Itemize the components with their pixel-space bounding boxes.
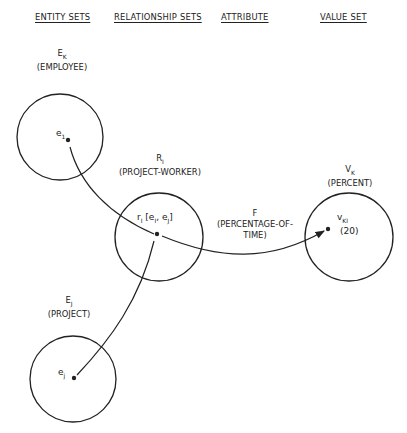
project-worker-set-label: RI (PROJECT-WORKER) [110, 153, 210, 178]
element-ej-dot [72, 376, 76, 380]
element-r1-dot [155, 232, 159, 236]
employee-set-label: EK (EMPLOYEE) [27, 48, 97, 73]
element-vk1-label: vKI [337, 212, 348, 224]
element-ej-label: ej [58, 367, 65, 379]
element-vk1-dot [326, 227, 330, 231]
element-r1-label: rI [eI, eJ] [137, 212, 173, 224]
percent-set-circle [305, 193, 393, 281]
attribute-label: F (PERCENTAGE-OF- TIME) [215, 208, 295, 241]
project-set-label: EJ (PROJECT) [34, 295, 104, 320]
element-vk1-value: (20) [340, 226, 358, 236]
percent-set-label: VK (PERCENT) [310, 164, 390, 189]
project-worker-set-circle [115, 193, 203, 281]
element-e1-dot [66, 138, 70, 142]
element-e1-label: e1 [56, 128, 65, 140]
